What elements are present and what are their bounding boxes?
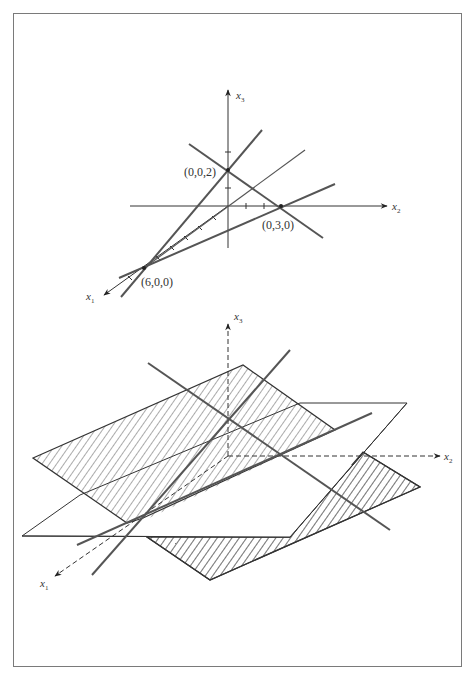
top-line-0-0-2-to-0-3-0 (189, 144, 323, 238)
bottom-x2-label: x2 (443, 450, 453, 465)
top-point-6-0-0 (142, 266, 146, 270)
top-line-6-0-0-to-0-3-0 (119, 184, 335, 278)
figure-canvas: (0,0,2) (0,3,0) (6,0,0) x3 x2 x1 x3 x2 x… (0, 0, 472, 680)
top-x3-label: x3 (235, 89, 245, 104)
top-label-0-0-2: (0,0,2) (184, 165, 216, 179)
top-line-6-0-0-to-0-0-2 (121, 130, 262, 297)
top-label-6-0-0: (6,0,0) (141, 275, 173, 289)
top-x1-label: x1 (85, 290, 95, 305)
top-point-0-0-2 (226, 168, 230, 172)
top-label-0-3-0: (0,3,0) (262, 218, 294, 232)
top-point-0-3-0 (279, 204, 283, 208)
top-diagram: (0,0,2) (0,3,0) (6,0,0) x3 x2 x1 (85, 89, 401, 305)
bottom-x3-label: x3 (233, 310, 243, 325)
top-x2-label: x2 (391, 200, 401, 215)
bottom-x1-label: x1 (39, 577, 49, 592)
bottom-diagram: x3 x2 x1 (22, 310, 453, 592)
